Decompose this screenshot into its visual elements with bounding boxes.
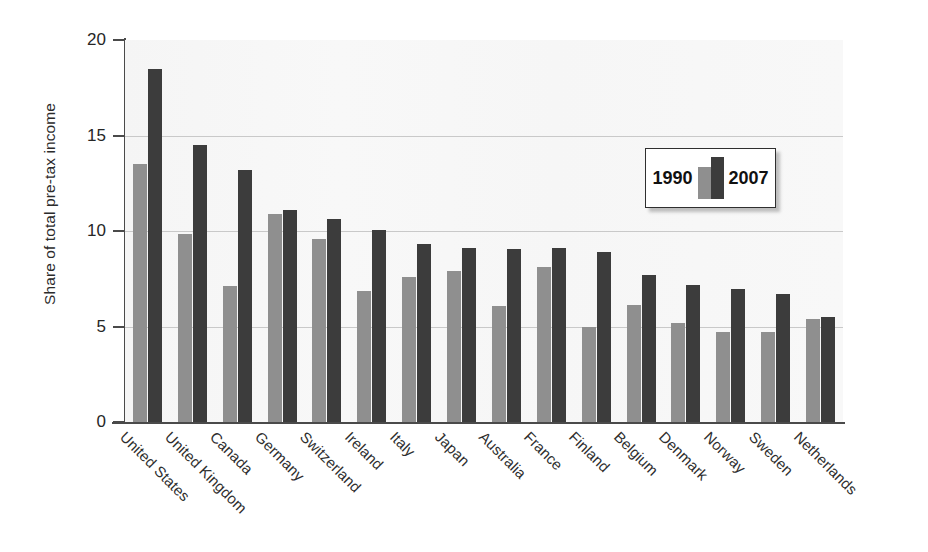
x-label-united-kingdom: United Kingdom: [162, 428, 250, 516]
x-label-france: France: [521, 428, 566, 473]
x-label-finland: Finland: [566, 428, 613, 475]
legend-swatch-2007: [711, 157, 724, 199]
chart-legend: 1990 2007: [645, 148, 776, 208]
legend-label-1990: 1990: [652, 169, 692, 187]
bar-chart-figure: Share of total pre-tax income 05101520 U…: [0, 0, 928, 552]
x-label-australia: Australia: [476, 428, 530, 482]
y-tick-mark: [113, 135, 124, 137]
x-label-ireland: Ireland: [342, 428, 387, 473]
x-axis-category-labels: United StatesUnited KingdomCanadaGermany…: [0, 0, 928, 552]
y-tick-mark: [113, 39, 124, 41]
legend-swatches: [698, 157, 724, 199]
legend-swatch-1990: [698, 167, 711, 199]
y-tick-mark: [113, 421, 124, 423]
x-label-netherlands: Netherlands: [791, 428, 861, 498]
x-label-japan: Japan: [432, 428, 473, 469]
y-tick-mark: [113, 230, 124, 232]
x-label-belgium: Belgium: [611, 428, 662, 479]
x-label-sweden: Sweden: [746, 428, 797, 479]
legend-label-2007: 2007: [729, 169, 769, 187]
x-label-italy: Italy: [387, 428, 419, 460]
y-tick-mark: [113, 326, 124, 328]
